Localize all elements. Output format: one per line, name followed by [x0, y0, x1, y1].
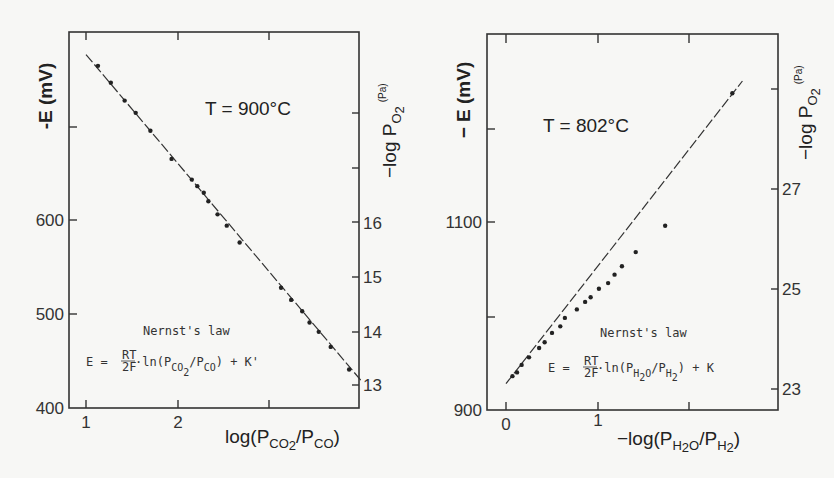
left-nernst-formula: E = RT 2F ·ln(PCO2/PCO) + K'	[86, 348, 259, 378]
right-xtick-label: 1	[593, 411, 602, 430]
left-y-axis-label: -E (mV)	[35, 63, 56, 130]
data-point	[606, 281, 610, 285]
data-point	[510, 374, 514, 378]
left-chart: 1 2 600 500 400 16 15 14 13 -E (mV) −log…	[35, 32, 407, 453]
data-point	[515, 370, 519, 374]
data-point	[289, 298, 293, 302]
data-point	[122, 98, 126, 102]
left-ytick-label: 500	[36, 305, 64, 324]
data-point	[190, 177, 194, 181]
right-y2-axis-label: −log PO2(Pa)	[793, 65, 823, 160]
svg-text:·ln(PCO2/PCO) + K': ·ln(PCO2/PCO) + K'	[135, 355, 259, 378]
data-point	[730, 91, 734, 95]
data-point	[612, 272, 616, 276]
data-point	[202, 191, 206, 195]
right-ytick-label: 900	[454, 401, 482, 420]
data-point	[537, 346, 541, 350]
data-point	[206, 199, 210, 203]
data-point	[307, 320, 311, 324]
left-xtick-label: 1	[81, 413, 90, 432]
data-point	[519, 363, 523, 367]
right-ytick-label: 1100	[445, 213, 482, 232]
data-point	[329, 345, 333, 349]
right-xtick-label: 0	[501, 415, 510, 434]
data-point	[317, 330, 321, 334]
data-point	[225, 223, 229, 227]
data-point	[300, 309, 304, 313]
left-y2tick-label: 15	[363, 268, 382, 287]
data-point	[550, 331, 554, 335]
right-temperature-label: T = 802°C	[543, 115, 629, 136]
data-point	[96, 64, 100, 68]
left-plot-frame	[69, 32, 359, 408]
left-xtick-label: 2	[173, 413, 182, 432]
data-point	[195, 184, 199, 188]
data-point	[588, 295, 592, 299]
left-y2-axis-label: −log PO2(Pa)	[377, 83, 407, 178]
data-point	[575, 307, 579, 311]
right-y2tick-label: 25	[782, 280, 801, 299]
right-y-axis-label: − E (mV)	[453, 62, 474, 139]
data-point	[169, 157, 173, 161]
data-point	[237, 240, 241, 244]
data-point	[527, 355, 531, 359]
data-point	[148, 129, 152, 133]
data-point	[347, 367, 351, 371]
left-y2tick-label: 14	[363, 323, 382, 342]
figure: 1 2 600 500 400 16 15 14 13 -E (mV) −log…	[0, 0, 834, 478]
right-x-axis-label: −log(PH2O/PH2)	[617, 428, 740, 455]
svg-text:E =: E =	[86, 355, 108, 369]
left-y2tick-label: 16	[363, 214, 382, 233]
data-point	[133, 111, 137, 115]
left-temperature-label: T = 900°C	[205, 98, 291, 119]
left-x-axis-label: log(PCO2/PCO)	[225, 426, 340, 453]
right-y2tick-label: 23	[782, 380, 801, 399]
data-point	[542, 340, 546, 344]
left-ytick-label: 400	[36, 399, 64, 418]
data-point	[620, 264, 624, 268]
data-point	[558, 324, 562, 328]
data-point	[215, 212, 219, 216]
right-chart: 0 1 1100 900 27 25 23 − E (mV) −log PO2(…	[445, 34, 823, 455]
svg-text:E =: E =	[548, 361, 570, 375]
right-nernst-formula: E = RT 2F ·ln(PH2O/PH2) + K	[548, 354, 715, 383]
data-point	[663, 224, 667, 228]
svg-text:·ln(PH2O/PH2) + K: ·ln(PH2O/PH2) + K	[597, 361, 715, 383]
left-ytick-label: 600	[36, 211, 64, 230]
left-law-title: Nernst's law	[143, 324, 230, 338]
data-point	[279, 285, 283, 289]
right-y2tick-label: 27	[782, 180, 801, 199]
data-point	[597, 287, 601, 291]
data-point	[563, 316, 567, 320]
left-y2tick-label: 13	[363, 376, 382, 395]
data-point	[109, 81, 113, 85]
data-point	[583, 300, 587, 304]
right-law-title: Nernst's law	[600, 326, 687, 340]
data-point	[634, 250, 638, 254]
